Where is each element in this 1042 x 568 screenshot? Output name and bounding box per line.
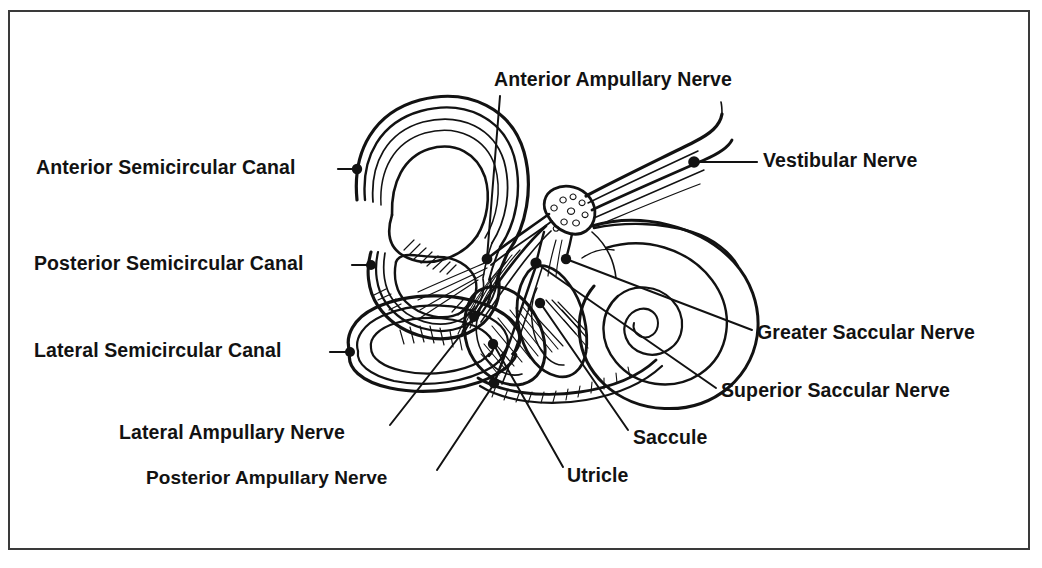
dot-saccule bbox=[535, 298, 545, 308]
label-superior-saccular-nerve: Superior Saccular Nerve bbox=[721, 381, 950, 401]
dot-anterior-semicircular-canal bbox=[352, 164, 362, 174]
label-vestibular-nerve: Vestibular Nerve bbox=[763, 151, 917, 171]
label-greater-saccular-nerve: Greater Saccular Nerve bbox=[757, 323, 975, 343]
vestibular-ganglion bbox=[544, 186, 595, 234]
dot-anterior-ampullary-nerve bbox=[482, 254, 493, 265]
label-posterior-semicircular-canal: Posterior Semicircular Canal bbox=[34, 254, 303, 274]
label-lateral-semicircular-canal: Lateral Semicircular Canal bbox=[34, 341, 282, 361]
figure-root: Anterior Semicircular Canal Posterior Se… bbox=[0, 0, 1042, 568]
leader-greater-saccular-nerve bbox=[566, 259, 752, 330]
dot-utricle bbox=[488, 339, 498, 349]
label-anterior-ampullary-nerve: Anterior Ampullary Nerve bbox=[494, 70, 732, 90]
dot-posterior-ampullary-nerve bbox=[489, 378, 500, 389]
leader-lines bbox=[330, 96, 757, 470]
label-anterior-semicircular-canal: Anterior Semicircular Canal bbox=[36, 158, 296, 178]
label-posterior-ampullary-nerve: Posterior Ampullary Nerve bbox=[146, 468, 388, 487]
vestibular-nerve-trunk bbox=[586, 102, 738, 266]
dot-vestibular-nerve bbox=[688, 156, 700, 168]
dot-superior-saccular-nerve bbox=[530, 257, 541, 268]
label-lateral-ampullary-nerve: Lateral Ampullary Nerve bbox=[119, 423, 345, 443]
label-utricle: Utricle bbox=[567, 466, 628, 486]
dot-posterior-semicircular-canal bbox=[366, 260, 376, 270]
leader-utricle bbox=[494, 345, 563, 467]
label-saccule: Saccule bbox=[633, 428, 707, 448]
dot-lateral-ampullary-nerve bbox=[469, 312, 479, 322]
anterior-semicircular-canal-loop bbox=[356, 96, 528, 262]
leader-posterior-ampullary-nerve bbox=[437, 384, 494, 470]
dot-lateral-semicircular-canal bbox=[345, 347, 355, 357]
dot-greater-saccular-nerve bbox=[561, 254, 571, 264]
